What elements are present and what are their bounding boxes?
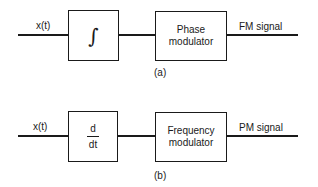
frequency-modulator-line1: Frequency (167, 125, 214, 137)
input-label-b: x(t) (33, 121, 47, 132)
derivative-numerator: d (90, 123, 96, 134)
phase-modulator-block: Phase modulator (155, 11, 227, 61)
input-line-b (18, 135, 68, 137)
phase-modulator-line2: modulator (169, 36, 213, 48)
frequency-modulator-line2: modulator (167, 137, 214, 149)
frequency-modulator-block: Frequency modulator (155, 112, 227, 162)
connector-line-b (118, 135, 155, 137)
integral-symbol: ∫ (88, 24, 98, 48)
output-line-a (227, 34, 298, 36)
derivative-denominator: dt (89, 139, 97, 150)
fraction-bar (87, 136, 99, 137)
caption-b: (b) (154, 170, 166, 181)
output-line-b (227, 135, 298, 137)
output-label-b: PM signal (239, 122, 283, 133)
input-label-a: x(t) (36, 20, 50, 31)
output-label-a: FM signal (239, 21, 282, 32)
caption-a: (a) (154, 67, 166, 78)
differentiator-block: d dt (68, 111, 118, 162)
derivative-fraction: d dt (87, 123, 99, 150)
phase-modulator-line1: Phase (169, 24, 213, 36)
integrator-block: ∫ (68, 10, 119, 61)
input-line-a (18, 34, 68, 36)
connector-line-a (119, 34, 155, 36)
